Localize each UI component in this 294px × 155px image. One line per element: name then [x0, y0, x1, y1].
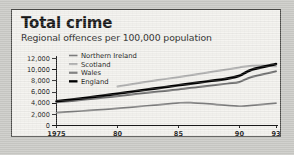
x-tick-label: 93	[271, 130, 281, 138]
legend-label-scotland: Scotland	[81, 61, 111, 69]
line-chart: 02,0004,0006,0008,00010,00012,000 197580…	[12, 43, 281, 137]
y-tick-label: 6,000	[31, 88, 50, 96]
figure-background: Total crime Regional offences per 100,00…	[0, 0, 294, 155]
chart-subtitle: Regional offences per 100,000 population	[21, 32, 212, 43]
legend-label-northern-ireland: Northern Ireland	[81, 52, 137, 60]
x-tick-label: 90	[235, 130, 245, 138]
chart-card: Total crime Regional offences per 100,00…	[11, 9, 281, 137]
y-tick-label: 4,000	[31, 99, 50, 107]
y-tick-label: 10,000	[27, 66, 50, 74]
x-tick-label: 80	[113, 130, 123, 138]
legend-label-wales: Wales	[81, 69, 102, 77]
x-tick-label: 85	[174, 130, 184, 138]
page-title: Total crime	[21, 14, 112, 32]
chart-legend: Northern IrelandScotlandWalesEngland	[69, 52, 137, 86]
y-tick-label: 8,000	[31, 77, 50, 85]
y-axis-ticks: 02,0004,0006,0008,00010,00012,000	[27, 55, 57, 130]
y-tick-label: 12,000	[27, 55, 50, 63]
y-tick-label: 2,000	[31, 111, 50, 119]
plot-area: 02,0004,0006,0008,00010,00012,000 197580…	[12, 43, 281, 137]
x-axis-ticks: 197580859093	[47, 126, 281, 138]
series-line-northern-ireland	[57, 102, 277, 112]
legend-label-england: England	[81, 78, 109, 86]
x-tick-label: 1975	[47, 130, 66, 138]
